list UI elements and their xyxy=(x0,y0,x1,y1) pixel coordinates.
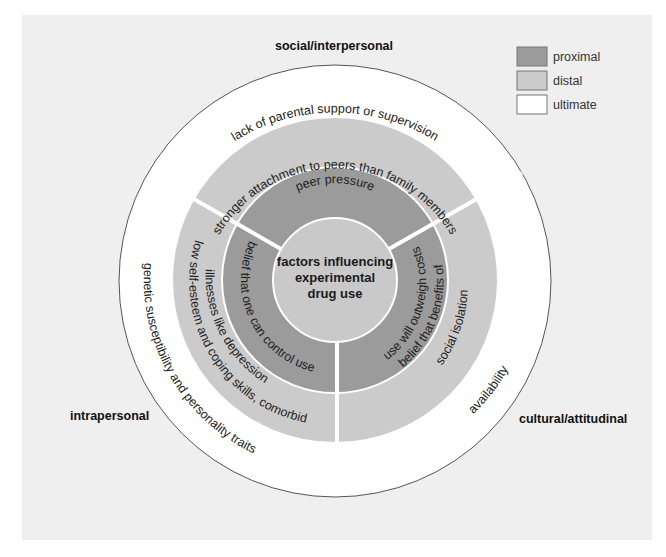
center-title-line-1: factors influencing xyxy=(277,254,393,269)
legend-label-proximal: proximal xyxy=(553,50,600,64)
drug-use-factors-diagram: lack of parental support or supervision … xyxy=(0,0,666,557)
center-title-line-3: drug use xyxy=(308,286,363,301)
sector-label-cultural: cultural/attitudinal xyxy=(519,412,627,426)
sector-label-social: social/interpersonal xyxy=(275,39,393,53)
legend-label-distal: distal xyxy=(553,74,582,88)
legend-swatch-distal xyxy=(517,71,547,90)
sector-label-intrapersonal: intrapersonal xyxy=(70,409,149,423)
legend-label-ultimate: ultimate xyxy=(553,98,597,112)
center-title-line-2: experimental xyxy=(295,270,375,285)
legend-swatch-proximal xyxy=(517,47,547,66)
legend-swatch-ultimate xyxy=(517,95,547,114)
legend: proximal distal ultimate xyxy=(517,47,600,114)
